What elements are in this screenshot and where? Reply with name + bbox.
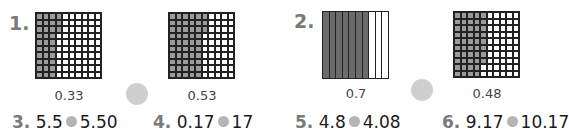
comparison-4: 4. 0.1717 bbox=[153, 112, 253, 132]
grid-strip bbox=[323, 12, 330, 78]
hundredths-grid-2 bbox=[168, 12, 235, 79]
compare-circle-1[interactable] bbox=[126, 83, 148, 105]
compare-dot[interactable] bbox=[66, 116, 77, 127]
comparison-3: 3. 5.55.50 bbox=[12, 112, 118, 132]
right-value: 10.17 bbox=[521, 112, 569, 132]
grid-4-caption: 0.48 bbox=[452, 86, 522, 101]
comparison-number: 5. bbox=[295, 112, 313, 132]
comparison-6: 6. 9.1710.17 bbox=[442, 112, 569, 132]
compare-circle-2[interactable] bbox=[411, 79, 433, 101]
grid-strip bbox=[336, 12, 343, 78]
compare-dot[interactable] bbox=[507, 116, 518, 127]
comparison-number: 3. bbox=[12, 112, 30, 132]
left-value: 5.5 bbox=[36, 112, 63, 132]
comparison-number: 4. bbox=[153, 112, 171, 132]
grid-strip bbox=[330, 12, 337, 78]
compare-dot[interactable] bbox=[349, 116, 360, 127]
right-value: 5.50 bbox=[80, 112, 118, 132]
hundredths-grid-4 bbox=[453, 11, 520, 78]
left-value: 0.17 bbox=[177, 112, 215, 132]
right-value: 4.08 bbox=[363, 112, 401, 132]
grid-strip bbox=[343, 12, 350, 78]
left-value: 9.17 bbox=[466, 112, 504, 132]
grid-2-caption: 0.53 bbox=[167, 88, 237, 103]
grid-strip bbox=[369, 12, 376, 78]
grid-cell bbox=[95, 72, 102, 79]
compare-dot[interactable] bbox=[218, 116, 229, 127]
grid-3-caption: 0.7 bbox=[321, 86, 391, 101]
comparison-number: 6. bbox=[442, 112, 460, 132]
grid-cell bbox=[513, 71, 520, 78]
exercise-2-number: 2. bbox=[294, 10, 314, 32]
left-value: 4.8 bbox=[319, 112, 346, 132]
grid-1-caption: 0.33 bbox=[34, 88, 104, 103]
hundredths-grid-1 bbox=[35, 12, 102, 79]
grid-strip bbox=[356, 12, 363, 78]
grid-strip bbox=[376, 12, 383, 78]
grid-strip bbox=[382, 12, 388, 78]
comparison-5: 5. 4.84.08 bbox=[295, 112, 401, 132]
tenths-grid bbox=[322, 11, 389, 79]
exercise-1-number: 1. bbox=[9, 12, 29, 34]
grid-strip bbox=[363, 12, 370, 78]
grid-strip bbox=[349, 12, 356, 78]
grid-cell bbox=[228, 72, 235, 79]
right-value: 17 bbox=[232, 112, 254, 132]
